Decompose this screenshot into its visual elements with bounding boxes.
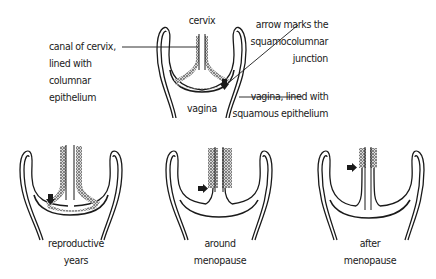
- stage-reproductive-caption-line-2: years: [42, 252, 111, 269]
- canal-annotation-line-3: columnar: [49, 72, 91, 89]
- canal-annotation-line-4: epithelium: [49, 89, 96, 106]
- arrow-annotation-line-3: junction: [293, 50, 328, 67]
- stage-reproductive-caption-line-1: reproductive: [42, 235, 111, 252]
- stage-after-menopause-stipple: [359, 148, 377, 168]
- stage-reproductive-figure: [20, 151, 122, 240]
- arrow-annotation-line-1: arrow marks the: [256, 16, 328, 33]
- stage-after-menopause-arrow-icon: [347, 163, 357, 172]
- stage-after-menopause-caption-line-1: after: [336, 235, 405, 252]
- stage-around-menopause-caption-line-1: around: [186, 235, 255, 252]
- stage-around-menopause-stipple: [208, 148, 232, 188]
- cervix-label: cervix: [185, 12, 219, 29]
- vagina-lining-annotation-line-2: squamous epithelium: [232, 105, 328, 122]
- canal-annotation-line-2: lined with: [49, 55, 92, 72]
- arrow-annotation-line-2: squamocolumnar: [251, 33, 328, 50]
- stage-around-menopause-figure: [166, 151, 272, 240]
- canal-annotation-line-1: canal of cervix,: [49, 38, 116, 55]
- vagina-label: vagina: [181, 100, 222, 117]
- stage-around-menopause-arrow-icon: [198, 184, 208, 193]
- columnar-epithelium-stipple: [174, 36, 230, 89]
- vagina-lining-annotation-line-1: vagina, lined with: [250, 88, 328, 105]
- stage-after-menopause-caption-line-2: menopause: [336, 252, 405, 269]
- stage-reproductive-stipple: [46, 146, 100, 212]
- stage-around-menopause-caption-line-2: menopause: [186, 252, 255, 269]
